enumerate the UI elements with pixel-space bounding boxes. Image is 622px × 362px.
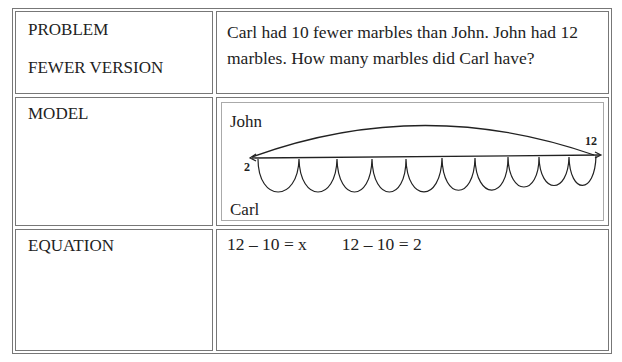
end-value-label: 12 xyxy=(585,134,597,148)
problem-label: PROBLEM xyxy=(28,20,108,40)
john-label: John xyxy=(230,112,263,131)
problem-text: Carl had 10 fewer marbles than John. Joh… xyxy=(227,19,602,71)
equation-cell: 12 – 10 = x 12 – 10 = 2 xyxy=(216,229,609,351)
equation-text: 12 – 10 = x 12 – 10 = 2 xyxy=(227,234,422,255)
problem-table: PROBLEM FEWER VERSION Carl had 10 fewer … xyxy=(12,8,612,354)
carl-label: Carl xyxy=(230,200,260,219)
john-arc xyxy=(252,125,594,157)
number-line-diagram: John Carl 12 2 xyxy=(222,103,604,222)
equation-row: EQUATION 12 – 10 = x 12 – 10 = 2 xyxy=(15,229,609,351)
model-label-cell: MODEL xyxy=(15,97,213,226)
model-label: MODEL xyxy=(28,104,88,124)
fewer-version-label: FEWER VERSION xyxy=(28,58,163,78)
start-value-label: 2 xyxy=(244,160,250,174)
model-row: MODEL John Carl 12 2 xyxy=(15,97,609,226)
problem-row: PROBLEM FEWER VERSION Carl had 10 fewer … xyxy=(15,11,609,94)
carl-hops xyxy=(258,156,596,192)
model-diagram: John Carl 12 2 xyxy=(221,102,604,221)
equation-label: EQUATION xyxy=(28,236,114,256)
problem-label-cell: PROBLEM FEWER VERSION xyxy=(15,11,213,94)
model-cell: John Carl 12 2 xyxy=(216,97,609,226)
number-line xyxy=(252,155,600,158)
equation-label-cell: EQUATION xyxy=(15,229,213,351)
problem-text-cell: Carl had 10 fewer marbles than John. Joh… xyxy=(216,11,609,94)
